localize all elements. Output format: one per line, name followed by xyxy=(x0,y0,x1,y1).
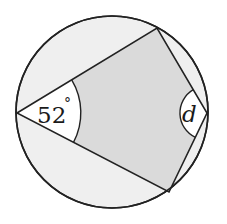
cyclic-quadrilateral-diagram: 52 ° d xyxy=(0,0,227,224)
degree-symbol: ° xyxy=(64,95,71,111)
angle-label-d: d xyxy=(182,101,197,127)
angle-label-52: 52 xyxy=(37,102,66,128)
